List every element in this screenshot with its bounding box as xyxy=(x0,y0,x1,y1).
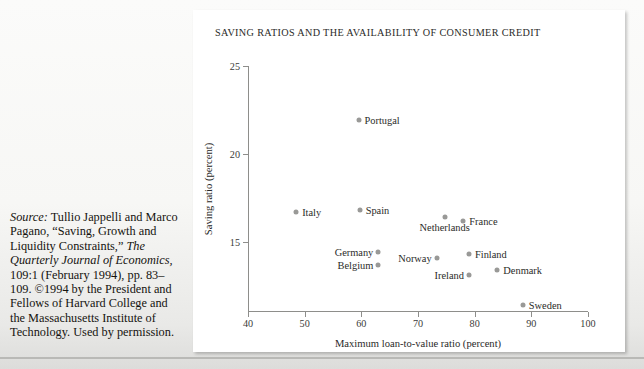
data-point xyxy=(356,118,361,123)
data-point-label: Ireland xyxy=(435,270,464,281)
data-point-label: Denmark xyxy=(503,264,542,275)
data-point xyxy=(434,255,439,260)
figure-panel: SAVING RATIOS AND THE AVAILABILITY OF CO… xyxy=(193,10,625,352)
data-point-label: Finland xyxy=(475,249,507,260)
x-tick xyxy=(361,312,362,317)
x-axis-title: Maximum loan-to-value ratio (percent) xyxy=(335,338,501,349)
data-point-label: Norway xyxy=(398,252,431,263)
source-text-part-2: 109:1 (February 1994), pp. 83–109. ©1994… xyxy=(10,268,174,340)
source-label: Source: xyxy=(10,210,48,224)
y-tick xyxy=(243,242,248,243)
y-axis-title: Saving ratio (percent) xyxy=(203,143,214,235)
data-point-label: Spain xyxy=(366,205,390,216)
y-axis-line xyxy=(248,66,249,312)
y-tick-label: 15 xyxy=(230,236,240,247)
y-tick xyxy=(243,154,248,155)
x-tick-label: 40 xyxy=(243,318,253,329)
x-tick xyxy=(531,312,532,317)
x-tick-label: 90 xyxy=(526,318,536,329)
data-point xyxy=(376,262,381,267)
data-point xyxy=(357,208,362,213)
data-point-label: Germany xyxy=(335,247,374,258)
data-point xyxy=(520,302,525,307)
data-point xyxy=(376,250,381,255)
x-tick xyxy=(248,312,249,317)
x-tick xyxy=(418,312,419,317)
x-tick xyxy=(305,312,306,317)
y-tick-label: 20 xyxy=(230,148,240,159)
data-point xyxy=(467,273,472,278)
x-tick-label: 70 xyxy=(413,318,423,329)
data-point-label: France xyxy=(469,215,497,226)
y-tick-label: 25 xyxy=(230,61,240,72)
data-point-label: Belgium xyxy=(338,259,374,270)
data-point-label: Italy xyxy=(302,206,321,217)
x-tick xyxy=(475,312,476,317)
x-tick-label: 100 xyxy=(580,318,595,329)
x-tick xyxy=(588,312,589,317)
figure-title: SAVING RATIOS AND THE AVAILABILITY OF CO… xyxy=(215,27,541,38)
source-caption: Source: Tullio Jappelli and Marco Pagano… xyxy=(10,210,180,340)
data-point-label: Portugal xyxy=(365,115,400,126)
x-tick-label: 80 xyxy=(470,318,480,329)
data-point xyxy=(461,218,466,223)
data-point-label: Sweden xyxy=(529,299,562,310)
x-tick-label: 50 xyxy=(300,318,310,329)
scatter-plot: 152025 405060708090100 PortugalItalySpai… xyxy=(248,66,588,312)
x-tick-label: 60 xyxy=(356,318,366,329)
data-point-label: Netherlands xyxy=(420,222,470,233)
data-point xyxy=(495,267,500,272)
data-point xyxy=(467,252,472,257)
page-bottom-rule xyxy=(0,357,644,359)
data-point xyxy=(294,209,299,214)
data-point xyxy=(442,215,447,220)
y-tick xyxy=(243,66,248,67)
